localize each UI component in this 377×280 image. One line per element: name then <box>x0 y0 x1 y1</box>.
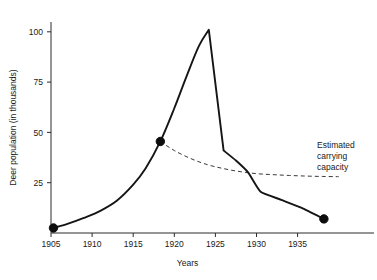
annotation-line: Estimated <box>317 140 355 150</box>
annotation-line: capacity <box>317 162 349 172</box>
x-tick-label: 1925 <box>206 239 225 249</box>
y-tick-label: 25 <box>34 178 44 188</box>
data-point-marker <box>156 137 164 145</box>
data-point-marker <box>320 215 328 223</box>
y-tick-label: 75 <box>34 77 44 87</box>
chart-annotations: Estimatedcarryingcapacity <box>317 140 355 172</box>
y-axis-title: Deer population (in thousands) <box>8 69 18 185</box>
x-tick-label: 1915 <box>124 239 143 249</box>
data-point-markers <box>49 137 328 232</box>
chart-canvas: 255075100 1905191019151920192519301935 Y… <box>0 0 377 280</box>
x-tick-label: 1930 <box>247 239 266 249</box>
x-tick-label: 1935 <box>288 239 307 249</box>
x-axis-ticks: 1905191019151920192519301935 <box>42 233 308 249</box>
y-tick-label: 50 <box>34 128 44 138</box>
data-point-marker <box>49 224 57 232</box>
y-axis-ticks: 255075100 <box>29 27 51 188</box>
x-tick-label: 1905 <box>42 239 61 249</box>
deer-population-line <box>53 30 323 228</box>
carrying-capacity-line <box>160 141 338 176</box>
x-axis-title: Years <box>177 258 198 268</box>
deer-population-chart: 255075100 1905191019151920192519301935 Y… <box>0 0 377 280</box>
carrying-capacity-label: Estimatedcarryingcapacity <box>317 140 355 172</box>
y-tick-label: 100 <box>29 27 43 37</box>
annotation-line: carrying <box>317 151 348 161</box>
x-tick-label: 1920 <box>165 239 184 249</box>
x-tick-label: 1910 <box>83 239 102 249</box>
